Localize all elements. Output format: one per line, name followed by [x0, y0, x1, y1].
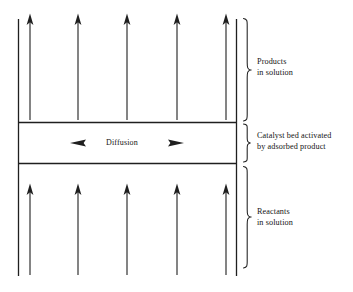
up-arrow [124, 184, 131, 276]
catalyst-label-line2: by adsorbed product [257, 142, 332, 153]
right-triangle-icon [168, 139, 184, 146]
left-triangle-icon [70, 139, 86, 146]
up-arrow [174, 184, 181, 276]
catalyst-region-label: Catalyst bed activated by adsorbed produ… [257, 131, 332, 152]
diffusion-label: Diffusion [106, 138, 138, 147]
reactants-region-label: Reactants in solution [257, 207, 293, 228]
up-arrow [27, 14, 34, 121]
up-arrow [223, 14, 230, 121]
products-label-line2: in solution [257, 68, 293, 79]
up-arrow [75, 14, 82, 121]
reactants-label-line2: in solution [257, 218, 293, 229]
up-arrow [223, 184, 230, 276]
reactants-label-line1: Reactants [257, 207, 293, 218]
up-arrow [174, 14, 181, 121]
diagram-canvas: Diffusion Products in solution Catalyst … [0, 0, 353, 292]
catalyst-brace-icon [244, 124, 251, 162]
products-brace-icon [244, 19, 251, 122]
reactants-brace-icon [244, 167, 251, 269]
catalyst-label-line1: Catalyst bed activated [257, 131, 332, 142]
up-arrow [27, 184, 34, 276]
products-label-line1: Products [257, 57, 293, 68]
region-braces [244, 19, 251, 269]
products-flow-arrows [27, 14, 230, 121]
up-arrow [124, 14, 131, 121]
products-region-label: Products in solution [257, 57, 293, 78]
reactants-flow-arrows [27, 184, 230, 276]
up-arrow [75, 184, 82, 276]
